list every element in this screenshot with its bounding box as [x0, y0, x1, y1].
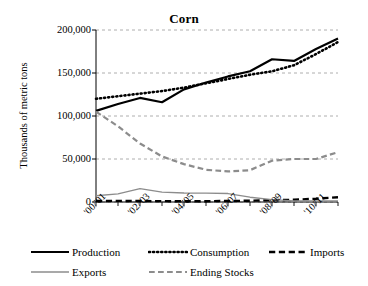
data-series-group — [96, 39, 338, 202]
legend-item-consumption: Consumption — [148, 243, 249, 261]
legend-item-imports: Imports — [268, 243, 344, 261]
chart-legend: Production Consumption Imports Exports E… — [0, 243, 368, 286]
legend-label-exports: Exports — [72, 266, 106, 278]
legend-swatch-exports — [30, 266, 70, 278]
series-line-consumption — [96, 42, 338, 99]
legend-item-exports: Exports — [30, 263, 106, 281]
series-line-ending-stocks — [96, 112, 338, 172]
legend-label-production: Production — [72, 246, 120, 258]
legend-item-production: Production — [30, 243, 120, 261]
legend-row: Production Consumption Imports — [0, 243, 368, 261]
legend-label-ending-stocks: Ending Stocks — [190, 266, 254, 278]
legend-item-ending-stocks: Ending Stocks — [148, 263, 254, 281]
legend-swatch-consumption — [148, 246, 188, 258]
series-line-exports — [96, 189, 338, 201]
series-line-production — [96, 39, 338, 111]
legend-swatch-ending-stocks — [148, 266, 188, 278]
legend-label-consumption: Consumption — [190, 246, 249, 258]
legend-swatch-production — [30, 246, 70, 258]
corn-supply-chart: Corn Thousands of metric tons 200,000 15… — [0, 0, 368, 286]
legend-row: Exports Ending Stocks — [0, 263, 368, 281]
legend-label-imports: Imports — [310, 246, 344, 258]
legend-swatch-imports — [268, 246, 308, 258]
